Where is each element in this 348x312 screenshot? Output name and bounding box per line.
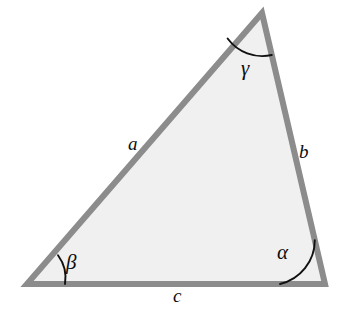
angle-label-gamma: γ (241, 58, 249, 79)
side-label-a: a (128, 134, 138, 153)
side-label-b: b (299, 142, 309, 161)
angle-label-beta: β (66, 252, 76, 273)
angle-label-alpha: α (277, 242, 288, 263)
triangle-figure: a b c α β γ (0, 0, 348, 312)
side-label-c: c (173, 286, 181, 305)
triangle-diagram-svg (0, 0, 348, 312)
